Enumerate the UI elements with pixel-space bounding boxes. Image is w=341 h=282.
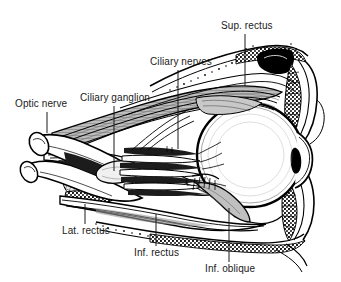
orbit-anatomy-artwork [0, 0, 341, 282]
label-inf-rectus: Inf. rectus [134, 247, 179, 258]
label-sup-rectus: Sup. rectus [221, 20, 273, 31]
label-ciliary-nerves: Ciliary nerves [150, 56, 212, 67]
label-optic-nerve: Optic nerve [15, 98, 67, 109]
label-lat-rectus: Lat. rectus [62, 225, 110, 236]
anatomical-figure: Optic nerve Ciliary ganglion Ciliary ner… [0, 0, 341, 282]
label-inf-oblique: Inf. oblique [205, 263, 255, 274]
label-ciliary-ganglion: Ciliary ganglion [80, 92, 150, 103]
